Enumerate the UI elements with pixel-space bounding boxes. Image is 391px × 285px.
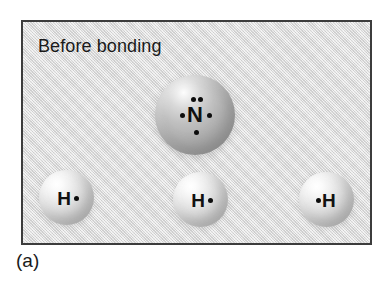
electron-dot-icon <box>208 198 213 203</box>
element-symbol-hydrogen-center: H <box>191 190 205 209</box>
electron-dot-icon <box>180 113 185 118</box>
lewis-structure-hydrogen-right: H <box>299 172 354 227</box>
element-symbol-hydrogen-right: H <box>322 190 336 209</box>
atom-hydrogen-center: H <box>173 172 228 227</box>
electron-dot-icon <box>207 113 212 118</box>
atom-nitrogen: N <box>155 75 235 155</box>
lewis-structure-hydrogen-center: H <box>173 172 228 227</box>
element-symbol-nitrogen: N <box>187 104 203 126</box>
electron-dot-icon <box>194 130 199 135</box>
element-symbol-hydrogen-left: H <box>57 188 71 207</box>
electron-dot-icon <box>74 196 79 201</box>
panel-title: Before bonding <box>38 36 162 56</box>
atom-hydrogen-right: H <box>299 172 354 227</box>
atom-hydrogen-left: H <box>39 170 94 225</box>
figure-root: Before bonding N H H <box>0 0 391 285</box>
electron-dot-icon <box>316 198 321 203</box>
electron-dot-icon <box>191 97 196 102</box>
illustration-panel: Before bonding N H H <box>21 20 372 245</box>
lewis-structure-nitrogen: N <box>155 75 235 155</box>
lewis-structure-hydrogen-left: H <box>39 170 94 225</box>
figure-caption: (a) <box>16 250 39 272</box>
